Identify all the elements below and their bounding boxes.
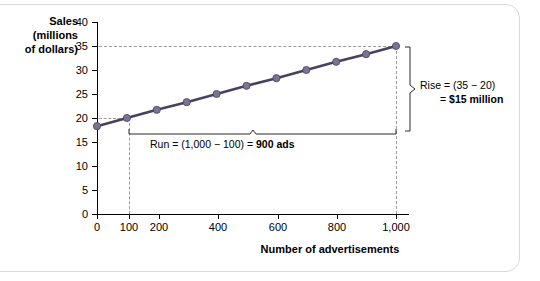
rise-annotation: Rise = (35 − 20) = $15 million bbox=[420, 78, 503, 106]
rise-annotation-value: $15 million bbox=[449, 93, 503, 105]
rise-annotation-eq: = bbox=[440, 93, 449, 105]
rise-annotation-line-2: = $15 million bbox=[420, 92, 503, 106]
chart-figure: Sales (millions of dollars) 40 35 30 25 … bbox=[0, 0, 540, 281]
rise-bracket-path bbox=[405, 47, 415, 131]
x-axis-title: Number of advertisements bbox=[180, 243, 480, 255]
rise-bracket bbox=[0, 0, 540, 281]
plot-area: Sales (millions of dollars) 40 35 30 25 … bbox=[0, 0, 540, 281]
rise-annotation-line-1: Rise = (35 − 20) bbox=[420, 79, 495, 91]
